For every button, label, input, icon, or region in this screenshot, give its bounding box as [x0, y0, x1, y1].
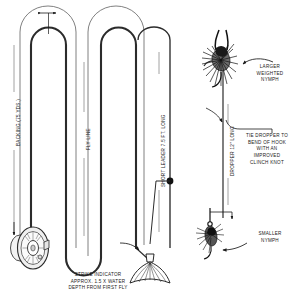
- smaller-nymph-bracket: [210, 212, 232, 219]
- backing-line: [20, 6, 76, 248]
- label-short-leader: SHORT LEADER 7.5 FT. LONG: [161, 114, 166, 187]
- label-smaller-nymph: SMALLER NYMPH: [248, 231, 292, 244]
- indicator-connector: [150, 181, 170, 244]
- smaller-nymph-callout-arrow: [223, 243, 247, 250]
- fly-rig-diagram: BACKING (75 YDS.) FLY LINE SHORT LEADER …: [0, 0, 295, 306]
- label-strike-indicator: STRIKE INDICATOR APPROX. 1.5 X WATER DEP…: [50, 272, 146, 292]
- tie-dropper-callout: [206, 108, 272, 133]
- label-dropper: DROPPER 12" LONG: [230, 126, 235, 176]
- label-larger-weighted-nymph: LARGER WEIGHTED NYMPH: [248, 64, 292, 84]
- leader-line: [136, 248, 147, 258]
- weighted-nymph-fly: [202, 30, 238, 87]
- label-backing: BACKING (75 YDS.): [16, 99, 21, 146]
- label-fly-line: FLY LINE: [86, 128, 91, 150]
- dropper-line: [204, 61, 223, 218]
- backing-gap-arrows: [41, 13, 56, 34]
- small-nymph-fly: [196, 208, 224, 259]
- fly-reel: [11, 227, 50, 269]
- label-tie-dropper-knot: TIE DROPPER TO BEND OF HOOK WITH AN IMPR…: [241, 133, 293, 166]
